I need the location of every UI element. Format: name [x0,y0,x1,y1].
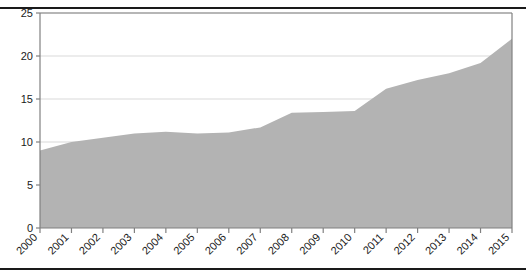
area-chart-plot: 0510152025 20002001200220032004200520062… [0,0,526,275]
y-tick-label: 10 [21,136,33,148]
y-tick-label: 5 [27,179,33,191]
x-tick-label: 2010 [328,231,354,257]
x-tick-label: 2004 [139,231,165,257]
y-axis-ticks-group: 0510152025 [21,7,40,234]
x-tick-label: 2013 [423,231,449,257]
x-tick-label: 2001 [45,231,71,257]
x-tick-label: 2003 [108,231,134,257]
x-tick-label: 2008 [265,231,291,257]
x-tick-label: 2012 [391,231,417,257]
x-tick-label: 2007 [234,231,260,257]
y-tick-label: 15 [21,93,33,105]
x-axis-ticks-group: 2000200120022003200420052006200720082009… [14,228,512,257]
x-tick-label: 2002 [77,231,103,257]
x-tick-label: 2015 [486,231,512,257]
area-series-group [40,39,512,228]
y-tick-label: 25 [21,7,33,19]
x-tick-label: 2006 [202,231,228,257]
chart-svg: 0510152025 20002001200220032004200520062… [0,0,526,275]
x-tick-label: 2000 [14,231,40,257]
x-tick-label: 2014 [454,231,480,257]
area-series-path [40,39,512,228]
x-tick-label: 2011 [360,231,385,256]
x-tick-label: 2009 [297,231,323,257]
chart-figure: 0510152025 20002001200220032004200520062… [0,0,526,275]
y-tick-label: 20 [21,50,33,62]
x-tick-label: 2005 [171,231,197,257]
